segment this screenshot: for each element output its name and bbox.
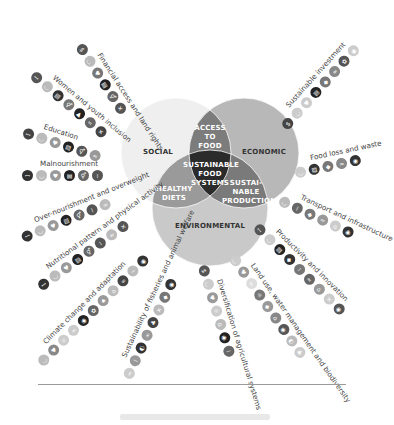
- equality-icon: ⁞: [92, 170, 103, 181]
- hunger-icon: ◡: [36, 170, 47, 181]
- education-icon: ▤: [64, 170, 75, 181]
- to-word: TO: [194, 133, 226, 142]
- access-word: ACCESS: [194, 124, 226, 133]
- chain-label: Malnourishment: [40, 159, 98, 168]
- poverty-icon: ꟷ: [22, 170, 33, 181]
- diets-word: DIETS: [156, 194, 192, 203]
- production-word: PRODUCTION: [222, 197, 270, 206]
- center-label: SUSTAINABLE FOOD SYSTEMS: [183, 161, 237, 188]
- caption-placeholder: [120, 414, 270, 420]
- systems-word: SYSTEMS: [183, 179, 237, 188]
- food-word: FOOD: [194, 142, 226, 151]
- economic-label: ECONOMIC: [238, 148, 290, 157]
- sustainable-word: SUSTAINABLE: [183, 161, 237, 170]
- access-to-food-label: ACCESS TO FOOD: [194, 124, 226, 151]
- health-icon: ♥: [50, 170, 61, 181]
- gender-icon: ⚥: [78, 170, 89, 181]
- footer-rule: [38, 384, 346, 385]
- food-word: FOOD: [183, 170, 237, 179]
- nable-word: NABLE: [222, 188, 270, 197]
